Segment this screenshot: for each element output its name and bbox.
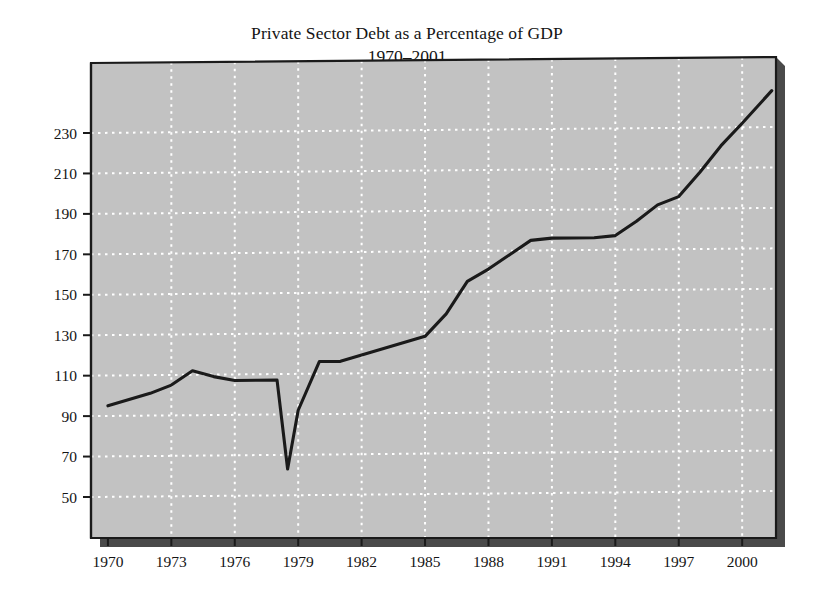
y-tick-label: 150 xyxy=(54,286,78,303)
x-tick-label: 1979 xyxy=(283,553,314,570)
y-tick-label: 210 xyxy=(54,165,78,182)
x-tick-label: 1970 xyxy=(92,553,123,570)
x-tick-label: 1976 xyxy=(219,553,250,570)
x-tick-label: 1988 xyxy=(473,553,504,570)
x-tick-label: 1973 xyxy=(156,553,187,570)
y-tick-label: 70 xyxy=(62,448,78,465)
y-axis-ticks: 507090110130150170190210230 xyxy=(54,125,91,506)
y-tick-label: 130 xyxy=(54,327,78,344)
plot-panel-background xyxy=(91,57,776,538)
x-tick-label: 2000 xyxy=(727,553,758,570)
y-tick-label: 90 xyxy=(62,408,78,425)
line-chart-plot: 507090110130150170190210230 197019731976… xyxy=(0,0,814,606)
y-tick-label: 230 xyxy=(54,125,78,142)
y-tick-label: 50 xyxy=(62,489,78,506)
y-tick-label: 190 xyxy=(54,205,78,222)
x-tick-label: 1982 xyxy=(346,553,377,570)
y-tick-label: 110 xyxy=(54,367,77,384)
chart-figure: Private Sector Debt as a Percentage of G… xyxy=(0,0,814,606)
x-tick-label: 1991 xyxy=(536,553,567,570)
x-tick-label: 1985 xyxy=(410,553,441,570)
y-tick-label: 170 xyxy=(54,246,78,263)
x-tick-label: 1997 xyxy=(663,553,694,570)
x-tick-label: 1994 xyxy=(600,553,631,570)
